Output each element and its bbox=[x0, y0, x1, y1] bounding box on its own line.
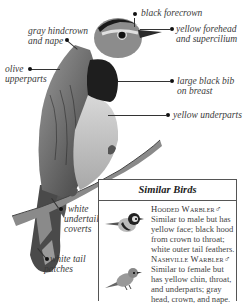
description-line: Similar to male but has bbox=[151, 214, 235, 224]
label-line: and nape bbox=[28, 36, 88, 46]
description-line: head, crown, and nape. bbox=[151, 294, 235, 304]
label-yellow-forehead: yellow forehead and supercilium bbox=[176, 24, 237, 44]
label-line: upperparts bbox=[5, 74, 47, 84]
label-black-bib: large black bib on breast bbox=[177, 76, 234, 96]
label-white-tail-patches: white tail patches bbox=[50, 254, 86, 274]
description-line: white outer tail feathers. bbox=[151, 244, 235, 254]
label-line: coverts bbox=[64, 224, 99, 234]
label-line: patches bbox=[44, 264, 86, 274]
hooded-warbler-thumbnail bbox=[103, 210, 145, 236]
leader-dot bbox=[59, 207, 63, 211]
description-line: and underparts; gray bbox=[151, 284, 235, 294]
label-line: white bbox=[64, 204, 99, 214]
label-yellow-underparts: yellow underparts bbox=[173, 110, 242, 120]
label-line: olive bbox=[5, 64, 47, 74]
leader-dot bbox=[166, 113, 170, 117]
description-line: Similar to female but bbox=[151, 264, 235, 274]
label-black-forecrown: black forecrown bbox=[141, 8, 202, 18]
label-olive-upperparts: olive upperparts bbox=[5, 64, 47, 84]
label-undertail-coverts: white undertail coverts bbox=[64, 204, 99, 234]
leader-line bbox=[118, 81, 170, 82]
similar-bird-name: Nashville Warbler bbox=[151, 254, 224, 264]
description-line: has yellow chin, throat, bbox=[151, 274, 235, 284]
description-line: yellow face; black hood bbox=[151, 224, 235, 234]
label-line: on breast bbox=[177, 86, 234, 96]
label-line: undertail bbox=[64, 214, 99, 224]
leader-dot bbox=[45, 257, 49, 261]
similar-bird-name: Hooded Warbler bbox=[151, 204, 215, 214]
male-symbol: ♂ bbox=[215, 204, 222, 214]
nashville-warbler-thumbnail bbox=[103, 266, 145, 292]
similar-birds-title: Similar Birds bbox=[99, 180, 236, 201]
leader-line bbox=[134, 18, 135, 27]
leader-line bbox=[108, 115, 166, 116]
nashville-warbler-description: Nashville Warbler♂ Similar to female but… bbox=[151, 254, 235, 304]
male-symbol: ♂ bbox=[224, 254, 231, 264]
label-line: large black bib bbox=[177, 76, 234, 86]
label-gray-hindcrown: gray hindcrown and nape bbox=[28, 26, 88, 46]
label-line: gray hindcrown bbox=[28, 26, 88, 36]
hooded-warbler-description: Hooded Warbler♂ Similar to male but has … bbox=[151, 204, 235, 254]
leader-dot bbox=[170, 79, 174, 83]
description-line: from crown to throat; bbox=[151, 234, 235, 244]
leader-line bbox=[140, 29, 170, 30]
label-line: yellow forehead bbox=[176, 24, 237, 34]
label-line: white tail bbox=[50, 254, 86, 264]
leader-dot bbox=[133, 12, 137, 16]
similar-birds-box: Similar Birds Hooded Warbler♂ Similar to… bbox=[98, 179, 237, 301]
label-line: and supercilium bbox=[176, 34, 237, 44]
leader-dot bbox=[170, 27, 174, 31]
